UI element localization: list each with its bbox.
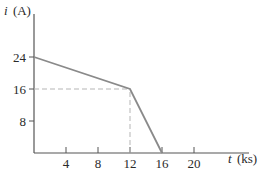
x-tick-label: 12 bbox=[124, 156, 137, 171]
x-tick-label: 4 bbox=[63, 156, 70, 171]
x-tick-label: 8 bbox=[95, 156, 102, 171]
y-tick-label: 24 bbox=[13, 50, 27, 65]
y-tick-label: 8 bbox=[20, 114, 27, 129]
current-vs-time-chart: i (A) t (ks) 4812162081624 bbox=[0, 0, 276, 172]
x-tick-label: 20 bbox=[188, 156, 201, 171]
dashed-guides bbox=[34, 89, 130, 153]
y-tick-label: 16 bbox=[13, 82, 27, 97]
x-axis-label: t (ks) bbox=[228, 151, 257, 166]
x-tick-label: 16 bbox=[156, 156, 170, 171]
y-axis-label: i (A) bbox=[4, 3, 31, 18]
current-line bbox=[34, 57, 162, 153]
